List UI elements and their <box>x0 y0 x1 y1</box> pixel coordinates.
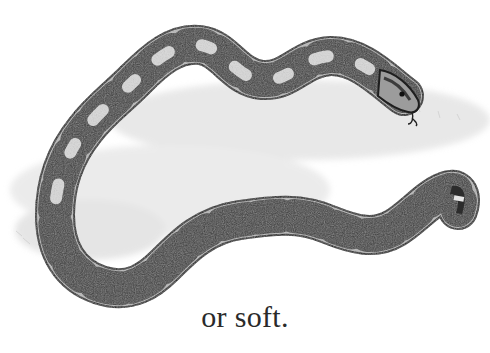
snake-eye <box>399 91 404 96</box>
caption-text: or soft. <box>0 300 490 334</box>
book-page: or soft. <box>0 0 490 353</box>
